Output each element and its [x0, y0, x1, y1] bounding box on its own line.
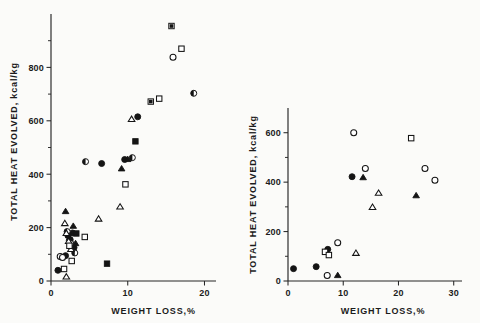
data-point-filled-triangle	[413, 192, 420, 197]
y-axis-title: TOTAL HEAT EVOLVED, kcal/kg	[9, 62, 19, 221]
x-tick-label: 0	[285, 288, 290, 298]
data-point-filled-circle	[349, 174, 355, 180]
series-open-circle	[324, 130, 438, 279]
x-tick-label: 20	[393, 288, 403, 298]
y-tick-label: 400	[265, 177, 281, 187]
data-point-open-square	[82, 234, 87, 239]
series-open-square	[322, 135, 414, 257]
data-layer	[55, 23, 197, 279]
data-point-open-circle	[324, 273, 330, 279]
data-point-filled-triangle	[360, 174, 367, 179]
data-point-open-square	[61, 266, 66, 271]
data-point-filled-circle	[135, 114, 141, 120]
series-open-circle	[57, 54, 176, 260]
x-tick-label: 10	[338, 288, 348, 298]
series-open-triangle	[353, 190, 382, 255]
data-point-filled-circle	[313, 264, 319, 270]
data-point-open-circle	[422, 166, 428, 172]
data-point-open-square	[179, 46, 184, 51]
y-tick-label: 800	[28, 63, 44, 73]
data-point-open-circle	[60, 255, 66, 261]
data-point-open-triangle	[63, 274, 70, 279]
x-tick-label: 10	[123, 288, 133, 298]
data-point-filled-circle	[99, 161, 105, 167]
data-point-open-triangle	[353, 250, 360, 255]
data-point-open-square	[157, 96, 162, 101]
data-point-filled-square	[74, 231, 79, 236]
y-tick-label: 600	[28, 116, 44, 126]
data-point-filled-square	[104, 261, 109, 266]
series-half-square	[148, 23, 174, 104]
x-tick-label: 20	[199, 288, 209, 298]
y-tick-label: 600	[265, 128, 281, 138]
y-axis-title: TOTAL HEAT EVOLVED, kcal/kg	[248, 115, 258, 274]
chart-panel-right: 02004006000102030WEIGHT LOSS,%TOTAL HEAT…	[240, 0, 480, 323]
series-filled-triangle	[334, 174, 419, 277]
y-tick-label: 200	[28, 223, 44, 233]
series-filled-circle	[291, 174, 356, 272]
data-point-half-square	[148, 99, 153, 104]
data-point-filled-triangle	[70, 223, 77, 228]
chart-panel-left: 020040060080001020WEIGHT LOSS,%TOTAL HEA…	[0, 0, 240, 323]
x-tick-label: 30	[449, 288, 459, 298]
data-point-filled-triangle	[334, 272, 341, 277]
chart-svg-right: 02004006000102030WEIGHT LOSS,%TOTAL HEAT…	[240, 0, 480, 323]
data-point-open-circle	[432, 177, 438, 183]
data-point-filled-square	[133, 139, 138, 144]
data-point-open-circle	[335, 240, 341, 246]
x-tick-label: 0	[48, 288, 53, 298]
y-tick-label: 200	[265, 227, 281, 237]
y-tick-label: 400	[28, 170, 44, 180]
data-point-filled-circle	[55, 267, 61, 273]
data-point-open-circle	[362, 166, 368, 172]
data-layer	[291, 130, 438, 279]
data-point-open-triangle	[95, 216, 102, 221]
data-point-filled-circle	[291, 266, 297, 272]
data-point-half-circle	[83, 159, 89, 165]
chart-svg-left: 020040060080001020WEIGHT LOSS,%TOTAL HEA…	[0, 0, 240, 323]
data-point-open-square	[408, 135, 413, 140]
data-point-open-triangle	[117, 204, 124, 209]
series-filled-circle	[55, 114, 141, 274]
data-point-open-triangle	[128, 116, 135, 121]
data-point-open-triangle	[62, 220, 69, 225]
y-tick-label: 0	[276, 276, 281, 286]
data-point-open-circle	[351, 130, 357, 136]
x-axis-title: WEIGHT LOSS,%	[111, 306, 196, 316]
data-point-half-circle	[191, 90, 197, 96]
data-point-open-square	[123, 182, 128, 187]
data-point-open-triangle	[369, 204, 376, 209]
series-half-circle	[64, 90, 197, 256]
data-point-open-square	[67, 243, 72, 248]
data-point-half-square	[169, 23, 174, 28]
data-point-open-triangle	[375, 190, 382, 195]
data-point-open-circle	[170, 54, 176, 60]
data-point-filled-triangle	[62, 208, 69, 213]
data-point-filled-triangle	[118, 166, 125, 171]
y-tick-label: 0	[39, 276, 44, 286]
x-axis-title: WEIGHT LOSS,%	[341, 306, 426, 316]
data-point-open-square	[69, 258, 74, 263]
data-point-open-square	[326, 252, 331, 257]
scatter-figure: 020040060080001020WEIGHT LOSS,%TOTAL HEA…	[0, 0, 480, 323]
